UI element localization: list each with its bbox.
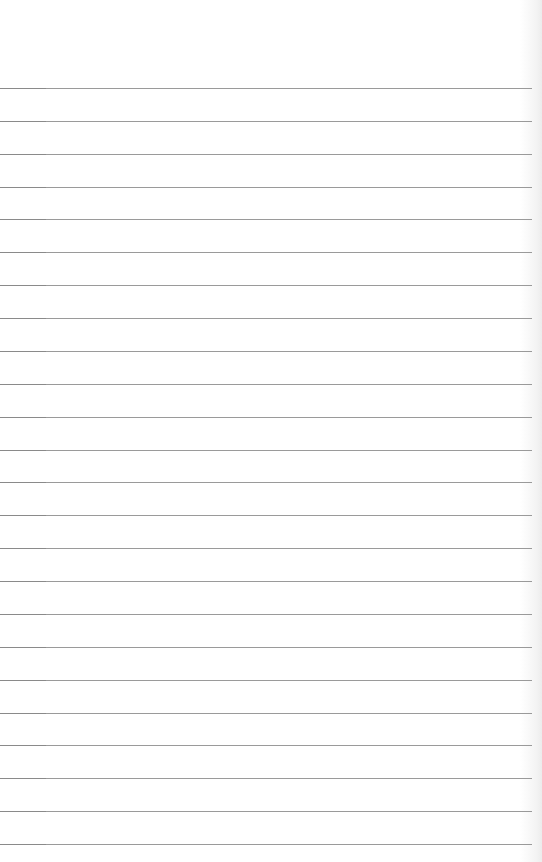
ruled-line-margin-segment <box>0 88 46 89</box>
ruled-line <box>0 680 532 681</box>
ruled-line-margin-segment <box>0 548 46 549</box>
ruled-line <box>0 417 532 418</box>
ruled-line-margin-segment <box>0 450 46 451</box>
ruled-line <box>0 581 532 582</box>
ruled-line-margin-segment <box>0 647 46 648</box>
ruled-line-margin-segment <box>0 417 46 418</box>
ruled-line <box>0 745 532 746</box>
ruled-line <box>0 844 532 845</box>
ruled-line <box>0 219 532 220</box>
ruled-line <box>0 187 532 188</box>
ruled-line <box>0 351 532 352</box>
ruled-line-margin-segment <box>0 384 46 385</box>
ruled-line-margin-segment <box>0 252 46 253</box>
ruled-line-margin-segment <box>0 515 46 516</box>
ruled-line <box>0 548 532 549</box>
ruled-line <box>0 384 532 385</box>
ruled-line-margin-segment <box>0 581 46 582</box>
ruled-line <box>0 121 532 122</box>
ruled-line-margin-segment <box>0 811 46 812</box>
ruled-line <box>0 318 532 319</box>
ruled-line <box>0 482 532 483</box>
ruled-line-margin-segment <box>0 482 46 483</box>
ruled-line-margin-segment <box>0 778 46 779</box>
ruled-line <box>0 154 532 155</box>
ruled-line-margin-segment <box>0 844 46 845</box>
ruled-line <box>0 252 532 253</box>
ruled-line-margin-segment <box>0 154 46 155</box>
ruled-line <box>0 88 532 89</box>
ruled-line <box>0 450 532 451</box>
ruled-line <box>0 515 532 516</box>
ruled-line-margin-segment <box>0 187 46 188</box>
ruled-line <box>0 285 532 286</box>
ruled-line-margin-segment <box>0 351 46 352</box>
ruled-line <box>0 614 532 615</box>
ruled-line <box>0 647 532 648</box>
ruled-line-margin-segment <box>0 318 46 319</box>
lined-paper <box>0 0 542 862</box>
ruled-line-margin-segment <box>0 219 46 220</box>
ruled-line-margin-segment <box>0 680 46 681</box>
ruled-line <box>0 713 532 714</box>
ruled-line-margin-segment <box>0 614 46 615</box>
ruled-line <box>0 778 532 779</box>
ruled-line-margin-segment <box>0 121 46 122</box>
ruled-line-margin-segment <box>0 285 46 286</box>
ruled-line-margin-segment <box>0 745 46 746</box>
ruled-line <box>0 811 532 812</box>
ruled-line-margin-segment <box>0 713 46 714</box>
